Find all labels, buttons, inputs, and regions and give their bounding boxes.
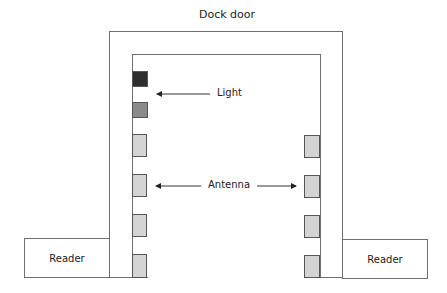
arrows-layer <box>0 0 447 293</box>
antenna-label: Antenna <box>208 179 250 190</box>
light-label: Light <box>217 87 242 98</box>
